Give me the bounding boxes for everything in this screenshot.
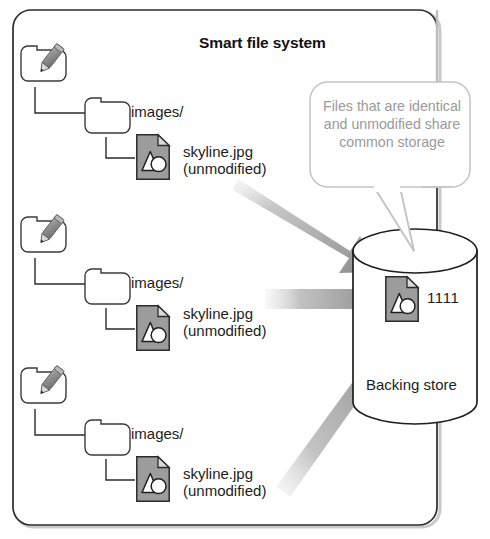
backing-store-label: Backing store	[366, 377, 457, 394]
folder-label-1: images/	[131, 104, 184, 121]
file-state-3: (unmodified)	[183, 483, 266, 500]
diagram-graphics	[0, 0, 490, 539]
file-state-2: (unmodified)	[183, 323, 266, 340]
file-name-3: skyline.jpg	[183, 465, 253, 482]
folder-label-3: images/	[131, 426, 184, 443]
file-name-1: skyline.jpg	[183, 143, 253, 160]
file-name-2: skyline.jpg	[183, 305, 253, 322]
file-icon-skyline-stored[interactable]	[386, 277, 418, 321]
backing-store-cylinder[interactable]	[353, 229, 477, 424]
file-icon-skyline-2[interactable]	[137, 306, 169, 350]
callout-text: Files that are identical and unmodified …	[316, 98, 468, 152]
file-state-1: (unmodified)	[183, 161, 266, 178]
diagram-canvas: Smart file system Files that are identic…	[0, 0, 490, 539]
folder-icon-2[interactable]	[85, 269, 130, 304]
file-icon-skyline-1[interactable]	[137, 135, 169, 179]
folder-icon-1[interactable]	[85, 98, 130, 133]
file-icon-skyline-3[interactable]	[137, 457, 169, 501]
file-label-2: skyline.jpg (unmodified)	[183, 306, 266, 340]
folder-icon-3[interactable]	[85, 420, 130, 455]
file-label-3: skyline.jpg (unmodified)	[183, 466, 266, 500]
stored-file-hash: 1111	[427, 290, 459, 307]
file-label-1: skyline.jpg (unmodified)	[183, 144, 266, 178]
folder-label-2: images/	[131, 275, 184, 292]
page-title: Smart file system	[199, 34, 326, 51]
